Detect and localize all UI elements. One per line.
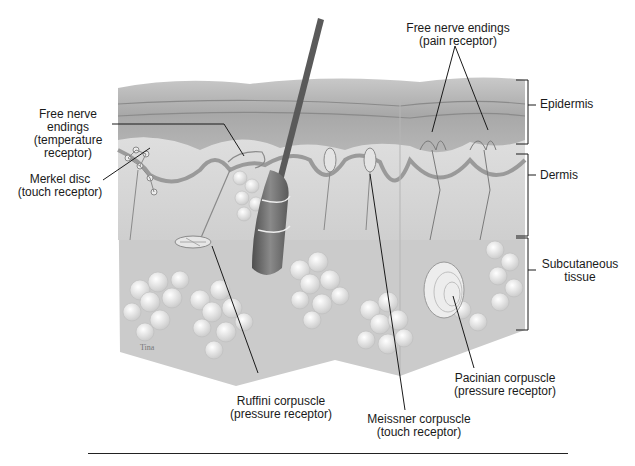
label-pacinian-corpuscle: Pacinian corpuscle (pressure receptor) — [440, 372, 570, 398]
label-meissner-corpuscle: Meissner corpuscle (touch receptor) — [354, 413, 484, 439]
label-subcutaneous-tissue: Subcutaneous tissue — [532, 258, 628, 284]
dermis-layer — [118, 138, 525, 240]
label-epidermis: Epidermis — [540, 98, 593, 111]
bottom-rule — [88, 453, 568, 454]
label-ruffini-corpuscle: Ruffini corpuscle (pressure receptor) — [216, 395, 346, 421]
label-dermis: Dermis — [540, 169, 578, 182]
artist-signature: Tina — [140, 343, 155, 352]
ruffini-corpuscle-shape — [175, 236, 211, 248]
label-free-nerve-endings-temperature: Free nerve endings (temperature receptor… — [26, 108, 110, 160]
epidermis-layer — [118, 77, 525, 152]
label-free-nerve-endings-pain: Free nerve endings (pain receptor) — [388, 22, 528, 48]
label-merkel-disc: Merkel disc (touch receptor) — [14, 173, 106, 199]
pacinian-corpuscle-shape — [424, 262, 464, 318]
